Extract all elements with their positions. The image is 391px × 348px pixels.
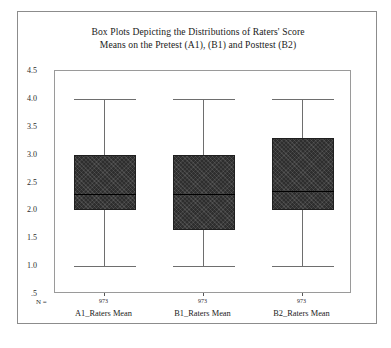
box-iqr-rect[interactable] <box>173 155 235 230</box>
upper-whisker-line <box>203 99 204 155</box>
y-axis-tick-3p5: 3.5 <box>7 121 37 130</box>
x-axis-category-label-1: A1_Raters Mean <box>75 309 132 318</box>
x-axis-category-label-2: B1_Raters Mean <box>174 309 231 318</box>
lower-whisker-cap <box>272 266 334 267</box>
n-count-1: 973 <box>99 298 108 304</box>
chart-title: Box Plots Depicting the Distributions of… <box>18 25 378 51</box>
y-axis-tick-1p0: 1.0 <box>7 261 37 270</box>
chart-title-line-1: Box Plots Depicting the Distributions of… <box>18 25 378 38</box>
y-axis-tick-2p0: 2.0 <box>7 205 37 214</box>
lower-whisker-cap <box>74 266 136 267</box>
x-axis-tick-2 <box>203 293 204 296</box>
x-axis-tick-3 <box>302 293 303 296</box>
y-axis-tick-4p0: 4.0 <box>7 93 37 102</box>
chart-title-line-2: Means on the Pretest (A1), (B1) and Post… <box>18 38 378 51</box>
n-axis-label: N = <box>36 298 47 306</box>
median-line <box>272 191 334 192</box>
upper-whisker-cap <box>173 99 235 100</box>
lower-whisker-line <box>203 230 204 266</box>
upper-whisker-line <box>302 99 303 138</box>
plot-area <box>54 70 351 293</box>
box-plot-3[interactable] <box>253 71 352 292</box>
box-iqr-rect[interactable] <box>74 155 136 211</box>
box-plot-1[interactable] <box>55 71 154 292</box>
x-axis-category-label-3: B2_Raters Mean <box>273 309 330 318</box>
box-plot-2[interactable] <box>154 71 253 292</box>
upper-whisker-cap <box>272 99 334 100</box>
y-axis-tick-1p5: 1.5 <box>7 233 37 242</box>
y-axis-tick-3p0: 3.0 <box>7 149 37 158</box>
y-axis-tick-4p5: 4.5 <box>7 66 37 75</box>
box-iqr-rect[interactable] <box>272 138 334 210</box>
upper-whisker-line <box>104 99 105 155</box>
n-count-3: 973 <box>297 298 306 304</box>
lower-whisker-line <box>104 210 105 266</box>
n-count-2: 973 <box>198 298 207 304</box>
y-axis-tick-p5: .5 <box>7 289 37 298</box>
x-axis-tick-1 <box>104 293 105 296</box>
median-line <box>74 194 136 195</box>
median-line <box>173 194 235 195</box>
figure-panel: Box Plots Depicting the Distributions of… <box>17 11 377 324</box>
lower-whisker-cap <box>173 266 235 267</box>
y-axis-tick-2p5: 2.5 <box>7 177 37 186</box>
upper-whisker-cap <box>74 99 136 100</box>
lower-whisker-line <box>302 210 303 266</box>
